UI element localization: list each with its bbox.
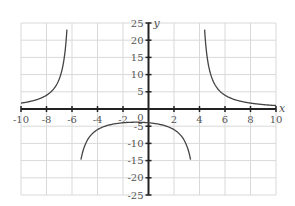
y-tick-label: -25 [127, 190, 143, 201]
y-tick-label: -10 [127, 138, 143, 149]
y-tick-label: 20 [131, 35, 144, 46]
x-tick-label: 6 [222, 114, 228, 125]
axes [21, 23, 276, 195]
x-tick-label: 10 [270, 114, 283, 125]
origin-label: 0 [137, 112, 143, 123]
x-tick-label: -8 [42, 114, 52, 125]
x-tick-label: 8 [247, 114, 253, 125]
y-axis-label: y [153, 17, 161, 30]
x-tick-label: -10 [13, 114, 29, 125]
x-tick-label: -4 [93, 114, 103, 125]
x-tick-label: -6 [67, 114, 77, 125]
x-tick-label: 2 [171, 114, 177, 125]
x-axis-label: x [279, 102, 286, 115]
x-tick-label: 4 [196, 114, 202, 125]
y-tick-label: 15 [131, 52, 144, 63]
y-tick-label: 5 [137, 86, 143, 97]
y-tick-label: -20 [127, 172, 143, 183]
y-tick-label: -15 [127, 155, 143, 166]
curve-right-branch [205, 30, 276, 106]
function-graph: -10-8-6-4-2246810-25-20-15-10-5510152025… [0, 0, 295, 206]
y-tick-label: 10 [131, 69, 144, 80]
y-tick-label: 25 [131, 18, 144, 29]
